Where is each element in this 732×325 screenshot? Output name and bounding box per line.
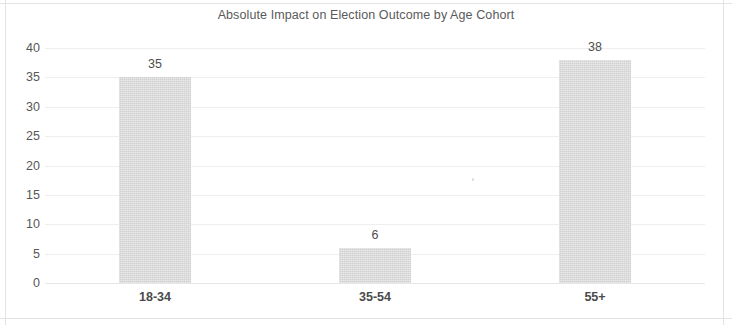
x-axis-category-labels: 18-3435-5455+ — [45, 290, 705, 310]
bar-value-label-18-34: 35 — [148, 57, 162, 71]
page-border-right — [723, 0, 724, 325]
bar-value-label-35-54: 6 — [372, 228, 379, 242]
y-tick-label-35: 35 — [4, 70, 40, 84]
y-tick-label-20: 20 — [4, 159, 40, 173]
bar-group: 6 — [265, 48, 485, 283]
y-tick-label-0: 0 — [4, 276, 40, 290]
bar-group: 38 — [485, 48, 705, 283]
y-axis-tick-labels: 0510152025303540 — [0, 48, 40, 283]
y-tick-label-15: 15 — [4, 188, 40, 202]
bars-layer: 35638 — [45, 48, 705, 283]
y-tick-label-10: 10 — [4, 217, 40, 231]
category-label-18-34: 18-34 — [139, 290, 171, 304]
page-border-bottom — [0, 318, 732, 319]
y-tick-label-5: 5 — [4, 247, 40, 261]
bar-group: 35 — [45, 48, 265, 283]
bar-18-34[interactable] — [119, 77, 191, 283]
y-tick-label-30: 30 — [4, 100, 40, 114]
y-tick-label-25: 25 — [4, 129, 40, 143]
category-label-35-54: 35-54 — [359, 290, 391, 304]
y-tick-label-40: 40 — [4, 41, 40, 55]
page-border-top — [0, 3, 732, 4]
chart-title: Absolute Impact on Election Outcome by A… — [0, 8, 732, 22]
bar-35-54[interactable] — [339, 248, 411, 283]
bar-value-label-55+: 38 — [588, 40, 602, 54]
scan-artifact-speck — [472, 178, 474, 181]
bar-chart-figure: Absolute Impact on Election Outcome by A… — [0, 0, 732, 325]
bar-55+[interactable] — [559, 60, 631, 283]
gridline-0 — [45, 283, 705, 284]
category-label-55+: 55+ — [584, 290, 605, 304]
